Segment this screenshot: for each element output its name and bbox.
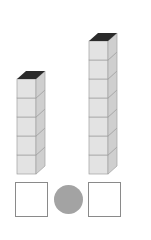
cube	[89, 41, 108, 60]
cube	[17, 117, 36, 136]
cube	[89, 117, 108, 136]
cube	[89, 136, 108, 155]
cube	[89, 98, 108, 117]
cube	[17, 136, 36, 155]
right-tower	[89, 33, 117, 174]
comparison-circle[interactable]	[54, 185, 83, 214]
cube	[17, 98, 36, 117]
cube	[17, 79, 36, 98]
left-tower	[17, 71, 45, 174]
right-answer-box[interactable]	[88, 182, 121, 217]
cube	[17, 155, 36, 174]
cube	[89, 155, 108, 174]
left-answer-box[interactable]	[15, 182, 48, 217]
cube	[89, 60, 108, 79]
cube	[89, 79, 108, 98]
